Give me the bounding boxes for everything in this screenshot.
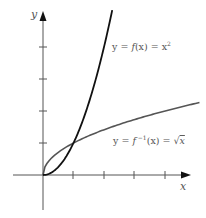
- parabola-curve: [43, 10, 112, 175]
- finv-label: y = f −1(x) = √x: [112, 134, 186, 146]
- y-axis-label: y: [30, 8, 38, 21]
- x-axis-arrow-icon: [181, 172, 191, 179]
- chart-canvas: y x y = f(x) = x2 y = f −1(x) = √x: [0, 0, 206, 218]
- x-axis-label: x: [180, 180, 187, 193]
- f-label: y = f(x) = x2: [111, 40, 171, 52]
- y-axis-arrow-icon: [40, 11, 47, 21]
